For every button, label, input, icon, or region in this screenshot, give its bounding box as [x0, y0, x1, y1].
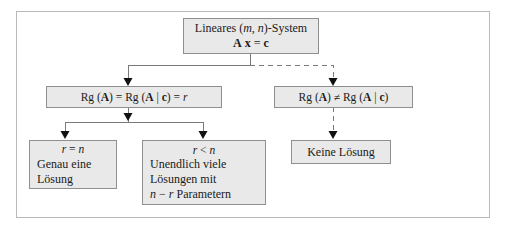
node-unique-line2: Lösung [30, 172, 116, 187]
diagram-frame: Lineares (m, n)-System A x = c Rg (A) = … [16, 11, 490, 218]
arrow-rank-equal-down [124, 113, 133, 121]
node-linear-system-line2: A x = c [184, 36, 318, 51]
node-no-solution: Keine Lösung [291, 140, 391, 164]
node-infinite-line2: Lösungen mit [143, 172, 265, 187]
arrow-to-unique [61, 131, 70, 139]
node-linear-system: Lineares (m, n)-System A x = c [183, 18, 319, 54]
node-infinite-solutions: r < n Unendlich viele Lösungen mit n − r… [142, 140, 266, 205]
node-unique-condition: r = n [30, 142, 116, 156]
node-rank-equal-label: Rg (A) = Rg (A | c) = r [47, 90, 221, 104]
node-no-solution-label: Keine Lösung [292, 145, 390, 160]
arrow-to-infinite [199, 131, 208, 139]
edge-rank-equal-split [65, 122, 128, 131]
arrow-to-rank-unequal [329, 78, 338, 86]
node-rank-unequal: Rg (A) ≠ Rg (A | c) [274, 86, 413, 108]
node-unique-line1: Genau eine [30, 157, 116, 172]
edge-root-to-rank-equal [128, 65, 250, 78]
node-unique-solution: r = n Genau eine Lösung [29, 140, 117, 189]
node-rank-unequal-label: Rg (A) ≠ Rg (A | c) [275, 90, 412, 104]
edge-rank-equal-split2 [128, 122, 203, 131]
edge-root-to-rank-unequal [250, 65, 333, 78]
node-linear-system-line1: Lineares (m, n)-System [184, 21, 318, 36]
arrow-to-rank-equal [124, 78, 133, 86]
node-infinite-line3: n − r Parametern [143, 187, 265, 202]
node-infinite-line1: Unendlich viele [143, 157, 265, 172]
arrow-to-no-solution [329, 131, 338, 139]
node-rank-equal: Rg (A) = Rg (A | c) = r [46, 86, 222, 108]
node-infinite-condition: r < n [143, 143, 265, 157]
